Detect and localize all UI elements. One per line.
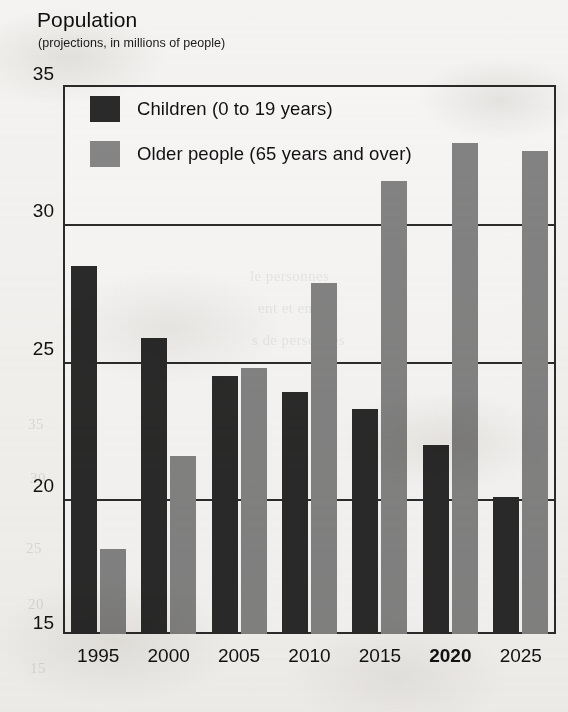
legend-item-children: Children (0 to 19 years) <box>90 96 412 122</box>
bar-2020-children <box>423 445 449 634</box>
bar-2010-older-people <box>311 283 337 634</box>
y-tick-30: 30 <box>14 200 54 222</box>
x-tick-2020: 2020 <box>410 645 490 667</box>
x-tick-2025: 2025 <box>481 645 561 667</box>
legend-label-older-people: Older people (65 years and over) <box>137 143 412 165</box>
bar-2010-children <box>282 392 308 634</box>
bars-layer <box>63 85 556 634</box>
y-tick-20: 20 <box>14 475 54 497</box>
population-bar-chart: Population (projections, in millions of … <box>0 0 568 712</box>
x-axis-tick-labels: 1995200020052010201520202025 <box>63 645 556 685</box>
bar-2015-children <box>352 409 378 634</box>
x-tick-2010: 2010 <box>270 645 350 667</box>
y-tick-25: 25 <box>14 338 54 360</box>
legend-swatch-children <box>90 96 120 122</box>
bar-2000-older-people <box>170 456 196 634</box>
bar-1995-older-people <box>100 549 126 634</box>
bar-2015-older-people <box>381 181 407 634</box>
x-tick-2000: 2000 <box>129 645 209 667</box>
bar-2000-children <box>141 338 167 634</box>
legend-item-older-people: Older people (65 years and over) <box>90 141 412 167</box>
y-tick-15: 15 <box>14 612 54 634</box>
x-tick-1995: 1995 <box>58 645 138 667</box>
chart-legend: Children (0 to 19 years) Older people (6… <box>90 96 412 167</box>
legend-label-children: Children (0 to 19 years) <box>137 98 333 120</box>
bar-2025-children <box>493 497 519 634</box>
bar-2025-older-people <box>522 151 548 634</box>
y-tick-35: 35 <box>14 63 54 85</box>
legend-swatch-older-people <box>90 141 120 167</box>
x-tick-2015: 2015 <box>340 645 420 667</box>
x-tick-2005: 2005 <box>199 645 279 667</box>
bar-2005-children <box>212 376 238 634</box>
bar-2020-older-people <box>452 143 478 634</box>
bar-2005-older-people <box>241 368 267 634</box>
bar-1995-children <box>71 266 97 634</box>
